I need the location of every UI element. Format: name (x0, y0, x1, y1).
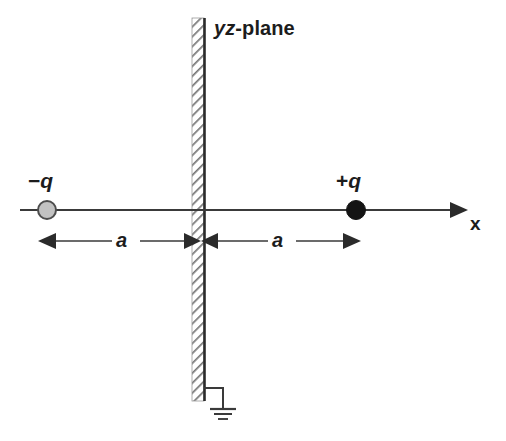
negative-charge-sign: − (28, 169, 40, 192)
yz-plane-label-italic: yz (214, 17, 235, 39)
dimension-right-arrowhead-right-icon (343, 233, 361, 249)
positive-charge-sign: + (336, 169, 348, 192)
negative-charge-label: −q (28, 170, 53, 191)
yz-plane-label-rest: -plane (235, 17, 295, 39)
dimension-left-arrowhead-left-icon (38, 233, 56, 249)
ground-symbol-icon (204, 388, 236, 419)
axis-arrowhead-icon (450, 202, 468, 218)
distance-label-right: a (272, 230, 283, 250)
positive-charge-marker (347, 201, 366, 220)
x-axis-label: x (470, 214, 481, 233)
positive-charge-symbol: q (348, 169, 361, 192)
physics-diagram: yz-plane −q +q a a x (0, 0, 506, 441)
x-axis-line (20, 202, 468, 218)
negative-charge-symbol: q (40, 169, 53, 192)
yz-plane-label: yz-plane (214, 18, 295, 38)
diagram-canvas (0, 0, 506, 441)
distance-label-left: a (116, 230, 127, 250)
positive-charge-label: +q (336, 170, 361, 191)
negative-charge-marker (38, 201, 56, 219)
